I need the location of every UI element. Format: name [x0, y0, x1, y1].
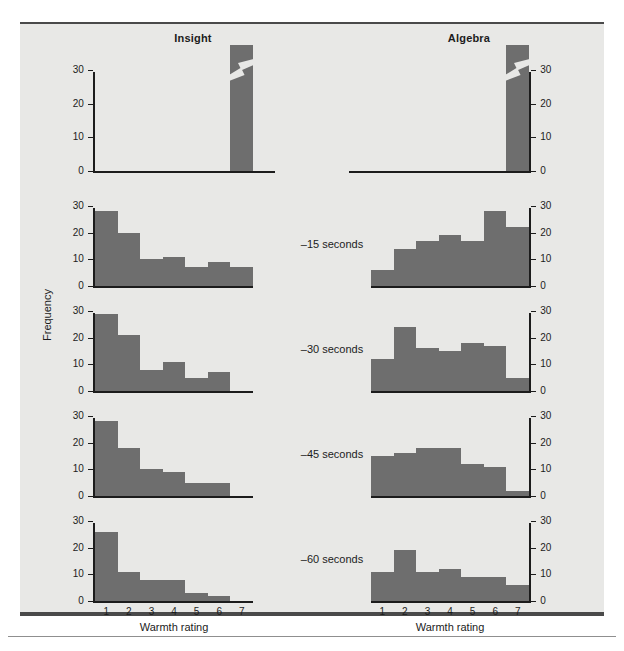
y-tick-label: 20	[540, 99, 551, 109]
bottom-rule	[8, 636, 616, 637]
y-axis-line	[529, 418, 531, 498]
bar-group	[95, 521, 253, 601]
bar	[461, 577, 484, 601]
y-tick-label: 20	[73, 438, 84, 448]
bar	[416, 448, 439, 496]
bar	[484, 211, 507, 286]
figure-panel: Insight Algebra Frequency 01020300102030…	[20, 22, 604, 616]
bar	[371, 270, 394, 286]
plot-area: 01020301234567Warmth rating	[95, 521, 253, 601]
bar	[371, 359, 394, 391]
x-tick-label: 1	[95, 606, 118, 617]
y-tick	[531, 286, 536, 287]
x-tick-label-group: 1234567	[95, 601, 253, 617]
y-axis-line	[93, 523, 95, 603]
y-tick-label: 20	[540, 543, 551, 553]
bar	[95, 421, 118, 496]
x-tick-label: 7	[230, 606, 253, 617]
row-label: –60 seconds	[272, 553, 392, 565]
axis-break-icon	[505, 59, 530, 81]
bar	[416, 572, 439, 601]
bar-group	[95, 206, 253, 286]
panel-algebra-row4: 01020301234567Warmth rating	[371, 521, 529, 601]
x-tick-label: 6	[208, 606, 231, 617]
bar	[394, 249, 417, 286]
bar	[140, 580, 163, 601]
bar	[185, 483, 208, 496]
y-axis-line	[93, 313, 95, 393]
x-axis-line	[95, 171, 275, 173]
x-axis-label: Warmth rating	[371, 621, 529, 633]
bar	[118, 335, 141, 391]
y-axis-line	[529, 313, 531, 393]
x-tick-label: 1	[371, 606, 394, 617]
y-tick-label: 30	[540, 411, 551, 421]
bar	[185, 593, 208, 601]
y-tick-label: 0	[540, 281, 546, 291]
y-tick-label: 0	[540, 491, 546, 501]
y-tick-label: 0	[540, 166, 546, 176]
bar	[506, 227, 529, 286]
y-tick	[88, 416, 93, 417]
y-tick	[531, 548, 536, 549]
y-tick	[531, 443, 536, 444]
column-title-insight: Insight	[133, 32, 253, 44]
y-tick-label: 10	[540, 132, 551, 142]
bar-group	[95, 70, 253, 171]
bar	[484, 346, 507, 391]
bar	[95, 211, 118, 286]
y-axis-line	[93, 208, 95, 288]
x-tick-label: 2	[118, 606, 141, 617]
y-tick	[88, 70, 93, 71]
y-tick	[88, 137, 93, 138]
panel-insight-row0: 0102030	[95, 70, 253, 171]
y-tick	[88, 548, 93, 549]
panel-algebra-row3: 0102030	[371, 416, 529, 496]
y-tick-label: 20	[540, 228, 551, 238]
y-tick-label: 0	[78, 491, 84, 501]
plot-area: 0102030	[371, 416, 529, 496]
y-tick	[88, 206, 93, 207]
bar	[394, 453, 417, 496]
bar	[394, 327, 417, 391]
bar	[439, 235, 462, 286]
plot-area: 0102030	[95, 311, 253, 391]
x-axis-line	[371, 391, 529, 393]
y-tick-label: 10	[73, 359, 84, 369]
y-tick	[88, 601, 93, 602]
x-tick-label: 6	[484, 606, 507, 617]
y-axis-line	[529, 72, 531, 173]
y-tick-label: 0	[78, 596, 84, 606]
x-axis-line	[349, 171, 529, 173]
y-tick-label: 20	[540, 333, 551, 343]
bar-group	[371, 416, 529, 496]
y-tick-label: 30	[540, 516, 551, 526]
y-tick	[531, 70, 536, 71]
y-tick-label: 0	[78, 166, 84, 176]
y-tick	[531, 364, 536, 365]
y-axis-line	[529, 208, 531, 288]
bar	[230, 267, 253, 286]
bar	[185, 378, 208, 391]
column-title-algebra: Algebra	[409, 32, 529, 44]
x-tick-label: 3	[416, 606, 439, 617]
x-axis-line	[95, 391, 253, 393]
bar	[439, 448, 462, 496]
y-tick	[88, 469, 93, 470]
panel-insight-row2: 0102030	[95, 311, 253, 391]
plot-area: 01020301234567Warmth rating	[371, 521, 529, 601]
y-tick-label: 10	[73, 254, 84, 264]
bar	[506, 378, 529, 391]
y-tick	[531, 259, 536, 260]
x-axis-line	[95, 286, 253, 288]
y-tick	[531, 137, 536, 138]
x-tick-label: 7	[506, 606, 529, 617]
bar	[140, 259, 163, 286]
y-tick	[88, 259, 93, 260]
y-tick-label: 30	[73, 516, 84, 526]
bar	[208, 372, 231, 391]
panel-algebra-row0: 0102030	[371, 70, 529, 171]
x-tick-label: 5	[185, 606, 208, 617]
bar	[163, 257, 186, 286]
x-tick-label-group: 1234567	[371, 601, 529, 617]
